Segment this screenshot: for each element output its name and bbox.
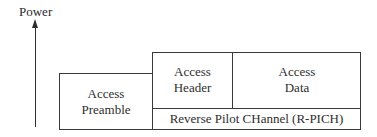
reverse-pilot-channel-label: Reverse Pilot CHannel (R-PICH) <box>152 111 361 127</box>
access-preamble-line1: Access <box>59 86 153 102</box>
access-data-line1: Access <box>233 64 361 80</box>
access-preamble-label: Access Preamble <box>59 86 153 118</box>
access-header-label: Access Header <box>152 64 233 96</box>
access-data-line2: Data <box>233 80 361 96</box>
access-header-line1: Access <box>152 64 233 80</box>
access-header-line2: Header <box>152 80 233 96</box>
access-data-label: Access Data <box>233 64 361 96</box>
pilot-divider <box>152 108 361 109</box>
power-axis-label: Power <box>19 4 52 20</box>
access-preamble-line2: Preamble <box>59 102 153 118</box>
power-axis-line <box>35 26 36 127</box>
